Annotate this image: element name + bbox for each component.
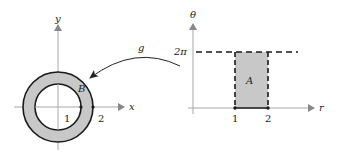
region-b-label: B (77, 83, 85, 94)
point-1 (79, 105, 82, 108)
theta-axis-label: θ (190, 9, 196, 20)
diagram-canvas: y x B 1 2 g θ r 2π A 1 2 (0, 0, 338, 159)
annulus-diagram: y x B 1 2 (14, 13, 135, 150)
point-2 (91, 105, 94, 108)
polar-rectangle-diagram: θ r 2π A 1 2 (173, 9, 325, 124)
tick-2-label: 2 (98, 113, 104, 124)
r-tick-1-label: 1 (232, 113, 238, 124)
r-point-2 (266, 106, 269, 109)
y-axis-label: y (54, 13, 61, 24)
x-axis-label: x (129, 101, 135, 112)
tick-1-label: 1 (64, 113, 70, 124)
r-point-1 (233, 106, 236, 109)
region-a-label: A (245, 75, 253, 86)
mapping-arrow: g (90, 42, 180, 78)
r-axis-label: r (319, 102, 325, 113)
r-tick-2-label: 2 (265, 113, 271, 124)
mapping-label: g (138, 42, 144, 53)
two-pi-label: 2π (173, 46, 187, 57)
